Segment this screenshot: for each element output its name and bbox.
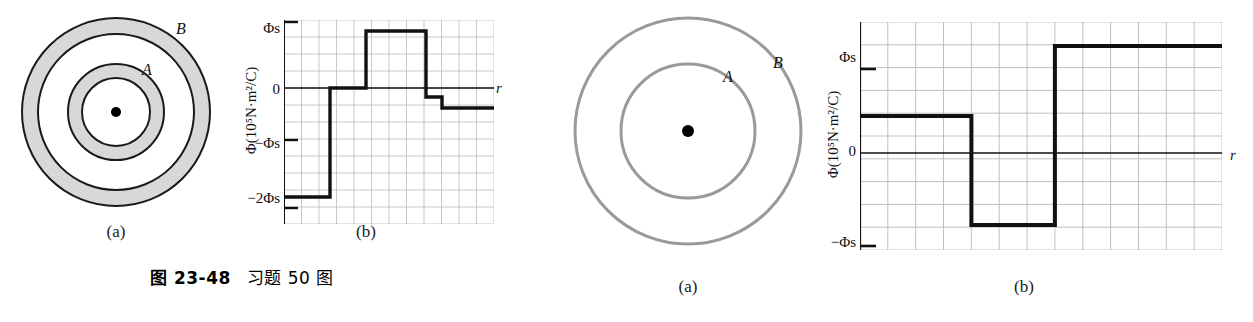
sublabel-right-a: (a) <box>652 277 724 297</box>
sublabel-left-b: (b) <box>330 222 402 242</box>
grid-lines-right <box>860 22 1222 250</box>
y-tick-label-neg-phis-left: −Φs <box>228 135 280 152</box>
y-axis-ticks-left <box>284 22 298 208</box>
y-axis-title-right: Φ(10⁵N·m²/C) <box>825 50 842 220</box>
y-axis-ticks-right <box>860 69 876 246</box>
step-trace-right <box>860 46 1222 225</box>
y-axis-title-left: Φ(10⁵N·m²/C) <box>243 36 260 186</box>
circles-svg-right <box>566 6 816 258</box>
step-chart-left: Φ(10⁵N·m²/C) Φs 0 −Φs −2Φs r <box>228 6 528 218</box>
figure-caption: 图 23-48习题 50 图 <box>150 264 334 289</box>
plot-area-right <box>860 22 1222 250</box>
shells-svg-left <box>8 4 224 216</box>
sublabel-left-a: (a) <box>80 222 152 242</box>
figure-container: B A (a) Φ(10⁵N·m²/C) Φs 0 −Φs −2Φs r <box>0 0 1253 322</box>
shell-label-A-left: A <box>142 61 152 79</box>
concentric-shells-diagram-left: B A <box>8 4 224 216</box>
step-chart-right: Φ(10⁵N·m²/C) Φs 0 −Φs r <box>806 8 1246 260</box>
plot-area-left <box>284 20 494 224</box>
center-charge-dot-right <box>682 125 694 137</box>
center-charge-dot <box>111 107 121 117</box>
y-tick-label-zero-left: 0 <box>236 81 280 98</box>
x-axis-label-r-left: r <box>496 80 502 97</box>
y-tick-label-phis-left: Φs <box>236 20 280 37</box>
shell-label-A-right: A <box>723 68 733 86</box>
y-tick-label-neg-phis-right: −Φs <box>804 234 856 251</box>
x-axis-label-r-right: r <box>1230 147 1236 164</box>
shell-label-B-left: B <box>176 20 186 38</box>
y-tick-label-neg-2phis-left: −2Φs <box>220 190 280 207</box>
grid-lines-left <box>284 20 494 224</box>
shell-label-B-right: B <box>773 54 783 72</box>
y-tick-label-phis-right: Φs <box>812 49 856 66</box>
y-tick-label-zero-right: 0 <box>812 143 856 160</box>
concentric-circles-diagram-right: B A <box>566 6 816 258</box>
caption-figure-number: 图 23-48 <box>150 268 231 288</box>
sublabel-right-b: (b) <box>988 277 1060 297</box>
caption-text: 习题 50 图 <box>247 268 334 288</box>
